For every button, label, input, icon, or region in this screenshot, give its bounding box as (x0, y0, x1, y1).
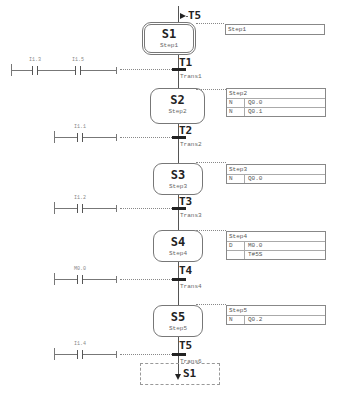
rung-end (116, 205, 117, 212)
ladder-rung-t3[interactable]: I1.2 (0, 198, 120, 218)
action-qualifier (227, 251, 245, 259)
rung-end (116, 276, 117, 283)
step-name: S3 (154, 168, 202, 182)
rung-wire (54, 354, 116, 355)
action-table-s1[interactable]: Step1 (225, 24, 325, 35)
t3-connector (120, 208, 172, 209)
action-table-s2[interactable]: Step2 NQ0.0 NQ0.1 (226, 88, 326, 117)
jump-target-label: S1 (183, 367, 196, 380)
t1-connector (120, 69, 172, 70)
transition-t1-bar[interactable] (172, 68, 186, 71)
entry-jump-label: T5 (188, 9, 201, 22)
rung-wire (54, 208, 116, 209)
step-label: Step5 (154, 325, 202, 332)
action-operand: M0.0 (245, 242, 262, 250)
contact-address: I1.1 (70, 124, 90, 130)
action-row: DM0.0 (227, 242, 325, 251)
action-operand: Q0.2 (245, 316, 262, 324)
step2-connector (196, 89, 226, 90)
step-s2[interactable]: S2 Step2 (150, 88, 205, 124)
contact-address: I1.2 (70, 195, 90, 201)
action-table-s3[interactable]: Step3 NQ0.0 (226, 164, 326, 184)
step3-connector (196, 162, 226, 163)
step-name: S4 (154, 235, 202, 249)
step-name: S5 (154, 310, 202, 324)
transition-label: Trans2 (180, 141, 202, 148)
ladder-rung-t5[interactable]: I1.4 (0, 344, 120, 364)
ladder-rung-t2[interactable]: I1.1 (0, 127, 120, 147)
action-row: NQ0.0 (227, 99, 325, 108)
transition-t2-bar[interactable] (172, 136, 186, 139)
t4-connector (120, 279, 172, 280)
action-operand: T#5S (245, 251, 262, 259)
ladder-rung-t4[interactable]: M0.0 (0, 269, 120, 289)
step5-connector (196, 304, 226, 305)
contact-address: M0.0 (70, 266, 90, 272)
rung-wire (11, 70, 116, 71)
action-table-header: Step4 (227, 232, 325, 242)
transition-t3-bar[interactable] (172, 207, 186, 210)
action-row: NQ0.2 (227, 316, 325, 324)
contact-no[interactable] (77, 204, 83, 213)
transition-name: T5 (179, 339, 192, 352)
action-qualifier: N (227, 108, 245, 116)
step-s1[interactable]: S1 Step1 (142, 22, 196, 55)
ladder-rung-t1[interactable]: I1.3 I1.5 (0, 60, 120, 80)
transition-t5-bar[interactable] (172, 353, 186, 356)
transition-t4-bar[interactable] (172, 278, 186, 281)
action-table-header: Step3 (227, 165, 325, 175)
step-label: Step4 (154, 250, 202, 257)
jump-arrow-icon (175, 374, 181, 380)
action-row: NQ0.1 (227, 108, 325, 116)
step-s4[interactable]: S4 Step4 (153, 230, 203, 262)
step-s5[interactable]: S5 Step5 (153, 305, 203, 337)
contact-no[interactable] (32, 66, 38, 75)
action-qualifier: D (227, 242, 245, 250)
t2-connector (120, 137, 172, 138)
action-operand: Q0.1 (245, 108, 262, 116)
rung-wire (54, 137, 116, 138)
step4-connector (196, 230, 226, 231)
step-s3[interactable]: S3 Step3 (153, 163, 203, 195)
action-row: NQ0.0 (227, 175, 325, 183)
contact-no[interactable] (77, 350, 83, 359)
rung-wire (54, 279, 116, 280)
contact-no[interactable] (77, 133, 83, 142)
contact-no[interactable] (75, 66, 81, 75)
action-qualifier: N (227, 316, 245, 324)
transition-name: T4 (179, 264, 192, 277)
rung-end (116, 67, 117, 74)
action-table-s5[interactable]: Step5 NQ0.2 (226, 305, 326, 325)
contact-address: I1.4 (70, 341, 90, 347)
action-operand: Q0.0 (245, 99, 262, 107)
t5-connector (120, 354, 172, 355)
contact-address: I1.5 (68, 57, 88, 63)
action-table-s4[interactable]: Step4 DM0.0 T#5S (226, 231, 326, 260)
contact-address: I1.3 (25, 57, 45, 63)
step-name: S2 (151, 93, 204, 107)
step1-connector (196, 23, 224, 24)
step-name: S1 (145, 27, 193, 41)
action-row: T#5S (227, 251, 325, 259)
action-qualifier: N (227, 175, 245, 183)
transition-label: Trans3 (180, 212, 202, 219)
action-qualifier: N (227, 99, 245, 107)
transition-label: Trans1 (180, 73, 202, 80)
action-table-header: Step1 (226, 25, 324, 34)
step-label: Step2 (151, 108, 204, 115)
transition-label: Trans4 (180, 283, 202, 290)
action-operand: Q0.0 (245, 175, 262, 183)
rung-end (116, 134, 117, 141)
contact-no[interactable] (77, 275, 83, 284)
step-label: Step3 (154, 183, 202, 190)
rung-end (116, 351, 117, 358)
action-table-header: Step5 (227, 306, 325, 316)
step-label: Step1 (145, 42, 193, 49)
action-table-header: Step2 (227, 89, 325, 99)
